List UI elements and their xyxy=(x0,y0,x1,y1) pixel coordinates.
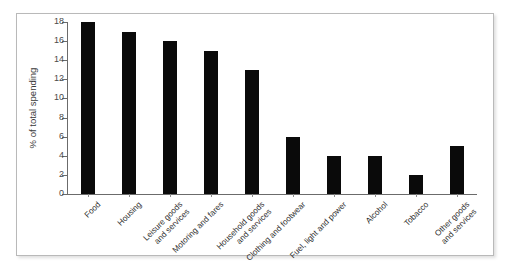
x-tick-mark xyxy=(293,194,294,197)
plot-area: 024681012141618 FoodHousingLeisure goods… xyxy=(67,22,477,194)
y-tick-label: 4 xyxy=(59,149,64,162)
y-tick-label: 10 xyxy=(54,91,64,104)
y-tick-label: 16 xyxy=(54,34,64,47)
x-tick-mark xyxy=(457,194,458,197)
y-tick-label: 14 xyxy=(54,53,64,66)
x-tick-mark xyxy=(211,194,212,197)
bar xyxy=(450,146,464,194)
y-tick-label: 0 xyxy=(59,187,64,200)
y-tick-label: 12 xyxy=(54,72,64,85)
x-tick-mark xyxy=(129,194,130,197)
x-tick-mark xyxy=(416,194,417,197)
bar xyxy=(327,156,341,194)
x-tick-mark xyxy=(252,194,253,197)
bar xyxy=(81,22,95,194)
chart-figure-frame: 024681012141618 FoodHousingLeisure goods… xyxy=(16,13,494,256)
y-tick-label: 2 xyxy=(59,168,64,181)
y-axis-line xyxy=(67,22,68,194)
bar xyxy=(245,70,259,194)
x-tick-label: Food xyxy=(11,200,103,276)
bar xyxy=(122,32,136,194)
y-tick-label: 8 xyxy=(59,111,64,124)
bar xyxy=(409,175,423,194)
y-tick-label: 18 xyxy=(54,15,64,28)
bar xyxy=(204,51,218,194)
y-axis-title: % of total spending xyxy=(26,22,39,194)
bar xyxy=(368,156,382,194)
x-tick-mark xyxy=(334,194,335,197)
bar xyxy=(286,137,300,194)
x-tick-mark xyxy=(170,194,171,197)
bar xyxy=(163,41,177,194)
x-tick-mark xyxy=(88,194,89,197)
y-tick-label: 6 xyxy=(59,130,64,143)
x-tick-mark xyxy=(375,194,376,197)
